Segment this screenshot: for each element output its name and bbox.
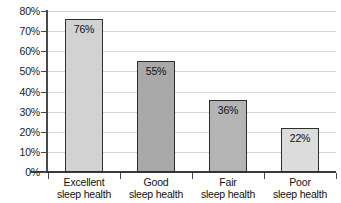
y-tick-mark [41,92,47,93]
y-tick-mark [41,51,47,52]
x-category-label-line1: Poor [264,176,336,188]
x-category-label: Poorsleep health [264,176,336,200]
x-category-label-line2: sleep health [120,188,192,200]
y-tick-mark [41,132,47,133]
y-tick-mark [41,112,47,113]
x-category-label-line2: sleep health [48,188,120,200]
y-tick-label: 30% [2,107,40,117]
y-tick-label: 60% [2,46,40,56]
x-category-label-line2: sleep health [264,188,336,200]
y-tick-label: 50% [2,66,40,76]
gridline [48,11,336,12]
y-tick-mark [41,71,47,72]
x-tick-mark [336,173,337,179]
x-category-label-line1: Fair [192,176,264,188]
y-tick-mark [41,31,47,32]
x-category-label: Excellentsleep health [48,176,120,200]
x-category-label: Fairsleep health [192,176,264,200]
y-tick-label: 40% [2,87,40,97]
bar-value-label: 22% [282,132,318,144]
y-tick-label: 70% [2,26,40,36]
y-tick-mark [41,172,47,173]
bar-value-label: 36% [210,104,246,116]
y-tick-mark [41,11,47,12]
bar-chart: 0%10%20%30%40%50%60%70%80% 76%Excellents… [0,0,341,203]
bar-value-label: 55% [138,65,174,77]
y-tick-label: 80% [2,6,40,16]
bar[interactable]: 22% [281,128,319,172]
x-category-label-line2: sleep health [192,188,264,200]
x-category-label: Goodsleep health [120,176,192,200]
bar[interactable]: 76% [65,19,103,172]
x-category-label-line1: Good [120,176,192,188]
bar[interactable]: 36% [209,100,247,172]
y-tick-label: 10% [2,147,40,157]
bar-value-label: 76% [66,23,102,35]
bar[interactable]: 55% [137,61,175,172]
y-tick-label: 20% [2,127,40,137]
y-tick-mark [41,152,47,153]
x-category-label-line1: Excellent [48,176,120,188]
